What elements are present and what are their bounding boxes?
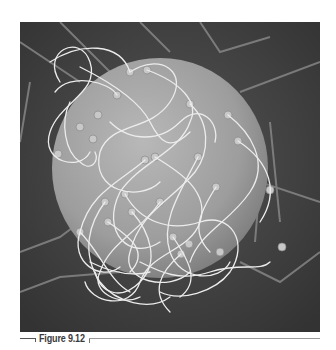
caption-rule-right — [89, 338, 320, 339]
micrograph-image — [20, 22, 320, 332]
caption-rule-left — [20, 338, 35, 339]
figure-caption: Figure 9.12 — [20, 334, 320, 350]
caption-rule-left-tick — [35, 338, 36, 342]
figure-label: Figure 9.12 — [39, 332, 85, 344]
